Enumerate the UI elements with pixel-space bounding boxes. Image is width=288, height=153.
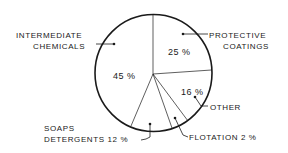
label-intermediate-line2: CHEMICALS <box>33 42 85 51</box>
pct-protective-coatings: 25 % <box>168 47 191 57</box>
label-soaps-line2: DETERGENTS 12 % <box>44 135 128 144</box>
pie-chart: 45 % 25 % 16 % INTERMEDIATE CHEMICALS PR… <box>0 0 288 153</box>
pct-other: 16 % <box>181 87 204 97</box>
label-protective-line2: COATINGS <box>223 42 269 51</box>
label-protective-line1: PROTECTIVE <box>209 31 266 40</box>
label-soaps-line1: SOAPS <box>44 124 75 133</box>
label-flotation: FLOTATION 2 % <box>189 133 257 142</box>
label-intermediate-line1: INTERMEDIATE <box>16 31 82 40</box>
label-other: OTHER <box>210 103 241 112</box>
pct-intermediate-chemicals: 45 % <box>113 71 136 81</box>
